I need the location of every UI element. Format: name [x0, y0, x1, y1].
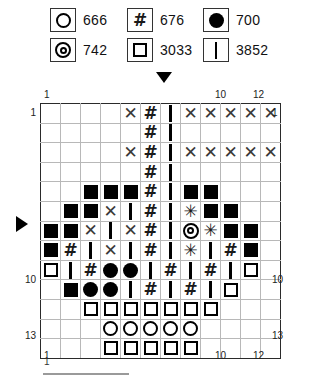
- stitch-cell-r9-c4[interactable]: [101, 260, 121, 280]
- stitch-cell-r7-c11[interactable]: [241, 221, 261, 241]
- stitch-cell-r5-c11[interactable]: [241, 182, 261, 202]
- stitch-cell-r12-c4[interactable]: [101, 319, 121, 339]
- stitch-cell-r8-c7[interactable]: [161, 241, 181, 261]
- stitch-cell-r3-c10[interactable]: ✕: [221, 143, 241, 163]
- stitch-cell-r13-c3[interactable]: [81, 339, 101, 359]
- stitch-cell-r4-c1[interactable]: [41, 162, 61, 182]
- stitch-cell-r4-c2[interactable]: [61, 162, 81, 182]
- stitch-cell-r3-c3[interactable]: [81, 143, 101, 163]
- stitch-cell-r3-c7[interactable]: [161, 143, 181, 163]
- stitch-cell-r3-c11[interactable]: ✕: [241, 143, 261, 163]
- stitch-cell-r2-c5[interactable]: [121, 123, 141, 143]
- stitch-cell-r5-c12[interactable]: [261, 182, 281, 202]
- stitch-cell-r2-c6[interactable]: #: [141, 123, 161, 143]
- stitch-cell-r6-c4[interactable]: ✕: [101, 201, 121, 221]
- stitch-cell-r11-c8[interactable]: [181, 299, 201, 319]
- stitch-cell-r3-c6[interactable]: #: [141, 143, 161, 163]
- stitch-cell-r7-c5[interactable]: ✕: [121, 221, 141, 241]
- stitch-cell-r12-c3[interactable]: [81, 319, 101, 339]
- stitch-cell-r7-c6[interactable]: #: [141, 221, 161, 241]
- stitch-cell-r5-c3[interactable]: [81, 182, 101, 202]
- stitch-cell-r5-c8[interactable]: [181, 182, 201, 202]
- stitch-cell-r6-c9[interactable]: [201, 201, 221, 221]
- stitch-cell-r11-c2[interactable]: [61, 299, 81, 319]
- stitch-cell-r5-c9[interactable]: [201, 182, 221, 202]
- stitch-cell-r2-c11[interactable]: [241, 123, 261, 143]
- stitch-cell-r6-c7[interactable]: [161, 201, 181, 221]
- stitch-cell-r12-c2[interactable]: [61, 319, 81, 339]
- stitch-cell-r8-c6[interactable]: #: [141, 241, 161, 261]
- stitch-cell-r2-c12[interactable]: [261, 123, 281, 143]
- stitch-cell-r8-c4[interactable]: ✕: [101, 241, 121, 261]
- stitch-cell-r1-c8[interactable]: ✕: [181, 104, 201, 124]
- stitch-cell-r13-c6[interactable]: [141, 339, 161, 359]
- stitch-cell-r3-c8[interactable]: ✕: [181, 143, 201, 163]
- stitch-cell-r10-c11[interactable]: [241, 280, 261, 300]
- stitch-cell-r9-c5[interactable]: [121, 260, 141, 280]
- stitch-cell-r3-c4[interactable]: [101, 143, 121, 163]
- stitch-cell-r9-c3[interactable]: #: [81, 260, 101, 280]
- stitch-cell-r11-c7[interactable]: [161, 299, 181, 319]
- stitch-cell-r6-c11[interactable]: [241, 201, 261, 221]
- stitch-cell-r4-c7[interactable]: [161, 162, 181, 182]
- stitch-cell-r9-c10[interactable]: [221, 260, 241, 280]
- stitch-cell-r8-c8[interactable]: ✳: [181, 241, 201, 261]
- stitch-cell-r7-c8[interactable]: [181, 221, 201, 241]
- stitch-cell-r10-c9[interactable]: [201, 280, 221, 300]
- stitch-cell-r4-c4[interactable]: [101, 162, 121, 182]
- stitch-cell-r10-c5[interactable]: [121, 280, 141, 300]
- stitch-cell-r13-c5[interactable]: [121, 339, 141, 359]
- stitch-cell-r6-c2[interactable]: [61, 201, 81, 221]
- stitch-cell-r6-c10[interactable]: [221, 201, 241, 221]
- stitch-cell-r8-c3[interactable]: [81, 241, 101, 261]
- stitch-cell-r7-c3[interactable]: ✕: [81, 221, 101, 241]
- stitch-cell-r2-c8[interactable]: [181, 123, 201, 143]
- stitch-cell-r2-c7[interactable]: [161, 123, 181, 143]
- stitch-cell-r13-c8[interactable]: [181, 339, 201, 359]
- stitch-cell-r11-c6[interactable]: [141, 299, 161, 319]
- stitch-cell-r1-c7[interactable]: [161, 104, 181, 124]
- stitch-cell-r5-c4[interactable]: [101, 182, 121, 202]
- stitch-cell-r5-c5[interactable]: [121, 182, 141, 202]
- stitch-cell-r1-c3[interactable]: [81, 104, 101, 124]
- stitch-cell-r5-c6[interactable]: #: [141, 182, 161, 202]
- stitch-cell-r3-c2[interactable]: [61, 143, 81, 163]
- stitch-cell-r6-c5[interactable]: [121, 201, 141, 221]
- stitch-cell-r4-c5[interactable]: [121, 162, 141, 182]
- stitch-cell-r3-c1[interactable]: [41, 143, 61, 163]
- stitch-cell-r1-c11[interactable]: ✕: [241, 104, 261, 124]
- stitch-cell-r10-c6[interactable]: #: [141, 280, 161, 300]
- stitch-cell-r11-c9[interactable]: [201, 299, 221, 319]
- stitch-cell-r13-c2[interactable]: [61, 339, 81, 359]
- stitch-cell-r1-c9[interactable]: ✕: [201, 104, 221, 124]
- stitch-cell-r9-c8[interactable]: [181, 260, 201, 280]
- stitch-cell-r11-c3[interactable]: [81, 299, 101, 319]
- stitch-cell-r12-c1[interactable]: [41, 319, 61, 339]
- stitch-cell-r2-c9[interactable]: [201, 123, 221, 143]
- stitch-cell-r2-c4[interactable]: [101, 123, 121, 143]
- stitch-cell-r6-c3[interactable]: [81, 201, 101, 221]
- stitch-cell-r3-c12[interactable]: ✕: [261, 143, 281, 163]
- stitch-cell-r2-c10[interactable]: [221, 123, 241, 143]
- stitch-cell-r1-c2[interactable]: [61, 104, 81, 124]
- stitch-cell-r8-c10[interactable]: #: [221, 241, 241, 261]
- stitch-cell-r11-c4[interactable]: [101, 299, 121, 319]
- stitch-cell-r2-c2[interactable]: [61, 123, 81, 143]
- stitch-cell-r11-c12[interactable]: [261, 299, 281, 319]
- stitch-cell-r11-c11[interactable]: [241, 299, 261, 319]
- stitch-cell-r5-c2[interactable]: [61, 182, 81, 202]
- stitch-cell-r6-c8[interactable]: ✳: [181, 201, 201, 221]
- stitch-cell-r10-c1[interactable]: [41, 280, 61, 300]
- stitch-cell-r7-c2[interactable]: [61, 221, 81, 241]
- stitch-cell-r7-c12[interactable]: [261, 221, 281, 241]
- stitch-cell-r3-c9[interactable]: ✕: [201, 143, 221, 163]
- stitch-cell-r9-c7[interactable]: #: [161, 260, 181, 280]
- stitch-cell-r2-c3[interactable]: [81, 123, 101, 143]
- stitch-cell-r8-c2[interactable]: #: [61, 241, 81, 261]
- stitch-cell-r12-c10[interactable]: [221, 319, 241, 339]
- stitch-cell-r4-c6[interactable]: #: [141, 162, 161, 182]
- stitch-cell-r8-c12[interactable]: [261, 241, 281, 261]
- stitch-cell-r9-c9[interactable]: #: [201, 260, 221, 280]
- stitch-cell-r6-c6[interactable]: #: [141, 201, 161, 221]
- stitch-cell-r6-c12[interactable]: [261, 201, 281, 221]
